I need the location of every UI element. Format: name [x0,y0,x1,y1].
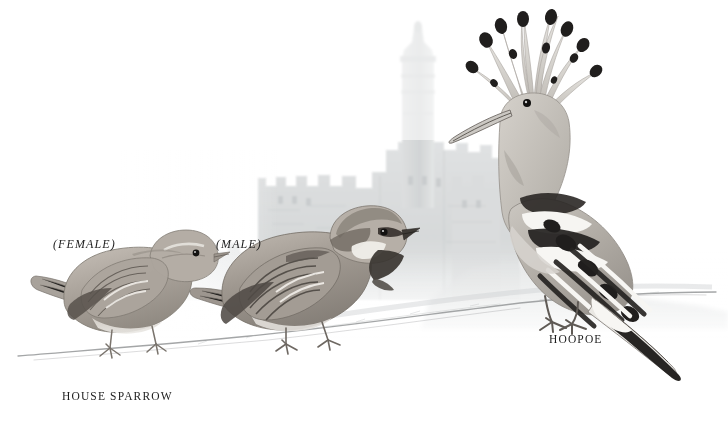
hoopoe [0,0,728,423]
bird-illustration-plate: (FEMALE) (MALE) HOUSE SPARROW HOOPOE [0,0,728,423]
caption-hoopoe: HOOPOE [549,333,603,345]
caption-house-sparrow: HOUSE SPARROW [62,390,173,402]
caption-male: (MALE) [216,237,262,252]
caption-female: (FEMALE) [53,237,116,252]
